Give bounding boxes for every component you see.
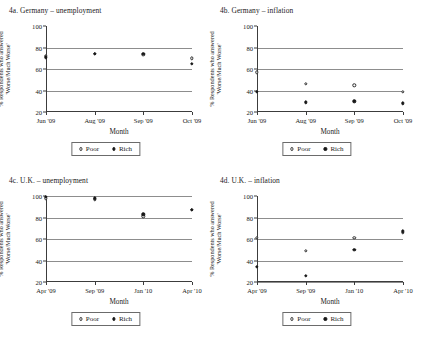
legend-item-rich[interactable]: Rich [324,315,344,323]
x-tick-label: Aug '09 [84,117,105,124]
x-tick-label: Apr '09 [36,287,55,294]
data-point-rich [93,52,96,55]
x-tick-mark [95,112,96,115]
y-axis-line [257,26,258,112]
data-point-poor [255,71,258,74]
chart-legend: PoorRich [71,312,140,326]
gridline [46,261,192,262]
data-point-poor [304,82,307,85]
x-tick-mark [354,112,355,115]
legend-item-rich[interactable]: Rich [112,315,132,323]
x-tick-mark [306,282,307,285]
x-axis-line [46,281,192,282]
x-tick-label: Jun '09 [37,117,55,124]
legend-label: Poor [297,315,310,323]
legend-item-poor[interactable]: Poor [290,315,310,323]
y-tick-label: 100 [243,23,253,30]
y-tick-mark [43,69,46,70]
data-point-rich [255,90,258,93]
legend-label: Poor [297,145,310,153]
y-tick-label: 60 [35,236,42,243]
open-circle-icon [79,317,82,320]
x-tick-mark [95,282,96,285]
x-tick-mark [306,112,307,115]
y-axis-title-line2: 'Worse/Much Worse' [216,196,223,282]
legend-item-rich[interactable]: Rich [112,145,132,153]
y-axis-title: % Respondents who answered'Worse/Much Wo… [0,26,11,112]
x-tick-label: Jan '10 [134,287,152,294]
y-tick-label: 80 [35,44,42,51]
chart-panel-4a: 4a. Germany – unemployment% Respondents … [0,0,211,170]
gridline [257,69,403,70]
y-axis-title: % Respondents who answered'Worse/Much Wo… [0,196,11,282]
plot-area: 20406080100Jun '09Aug '09Sep '09Oct '09 [257,26,403,112]
y-tick-label: 40 [246,87,253,94]
panel-title: 4a. Germany – unemployment [9,6,102,15]
y-tick-label: 40 [35,87,42,94]
y-tick-mark [43,47,46,48]
y-axis-title: % Respondents who answered'Worse/Much Wo… [209,196,222,282]
x-axis-title: Month [257,298,403,306]
gridline [46,69,192,70]
gridline [46,218,192,219]
legend-item-poor[interactable]: Poor [79,315,99,323]
y-axis-line [46,26,47,112]
x-tick-mark [257,112,258,115]
y-tick-mark [43,239,46,240]
legend-item-poor[interactable]: Poor [290,145,310,153]
data-point-rich [353,100,356,103]
legend-label: Rich [119,145,132,153]
x-tick-mark [192,282,193,285]
y-axis-line [46,196,47,282]
y-tick-mark [254,196,257,197]
chart-legend: PoorRich [282,312,351,326]
x-tick-mark [403,112,404,115]
y-tick-label: 20 [246,279,253,286]
data-point-rich [304,101,307,104]
legend-label: Poor [86,145,99,153]
y-tick-mark [254,26,257,27]
panel-title: 4b. Germany – inflation [220,6,293,15]
gridline [46,239,192,240]
data-point-poor [190,57,193,60]
x-axis-title: Month [257,128,403,136]
legend-label: Rich [330,145,343,153]
y-tick-mark [43,260,46,261]
y-tick-label: 80 [35,214,42,221]
y-tick-label: 100 [32,23,42,30]
x-tick-mark [46,282,47,285]
plot-area: 20406080100Apr '09Sep '09Jan '10Apr '10 [46,196,192,282]
gridline [46,91,192,92]
y-tick-mark [254,69,257,70]
x-tick-label: Apr '10 [393,287,412,294]
y-tick-label: 60 [246,236,253,243]
x-tick-label: Sep '09 [345,117,364,124]
x-axis-title: Month [46,128,192,136]
data-point-poor [353,83,356,86]
gridline [257,239,403,240]
y-tick-label: 100 [32,193,42,200]
data-point-rich [255,265,258,268]
legend-item-poor[interactable]: Poor [79,145,99,153]
x-tick-mark [403,282,404,285]
filled-circle-icon [112,317,115,320]
y-tick-label: 60 [35,66,42,73]
x-tick-label: Sep '09 [85,287,104,294]
y-tick-mark [43,217,46,218]
filled-circle-icon [324,317,327,320]
legend-item-rich[interactable]: Rich [324,145,344,153]
y-axis-title-line2: 'Worse/Much Worse' [216,26,223,112]
y-tick-mark [43,26,46,27]
legend-label: Rich [330,315,343,323]
data-point-rich [401,102,404,105]
chart-legend: PoorRich [71,142,140,156]
chart-panel-4d: 4d. U.K. – inflation% Respondents who an… [211,170,423,340]
y-tick-mark [43,90,46,91]
plot-area: 20406080100Apr '09Sep '09Jan '10Apr '10 [257,196,403,282]
gridline [46,48,192,49]
chart-panel-4c: 4c. U.K. – unemployment% Respondents who… [0,170,211,340]
legend-label: Poor [86,315,99,323]
x-tick-label: Jun '09 [248,117,266,124]
open-circle-icon [79,147,82,150]
gridline [257,282,403,283]
